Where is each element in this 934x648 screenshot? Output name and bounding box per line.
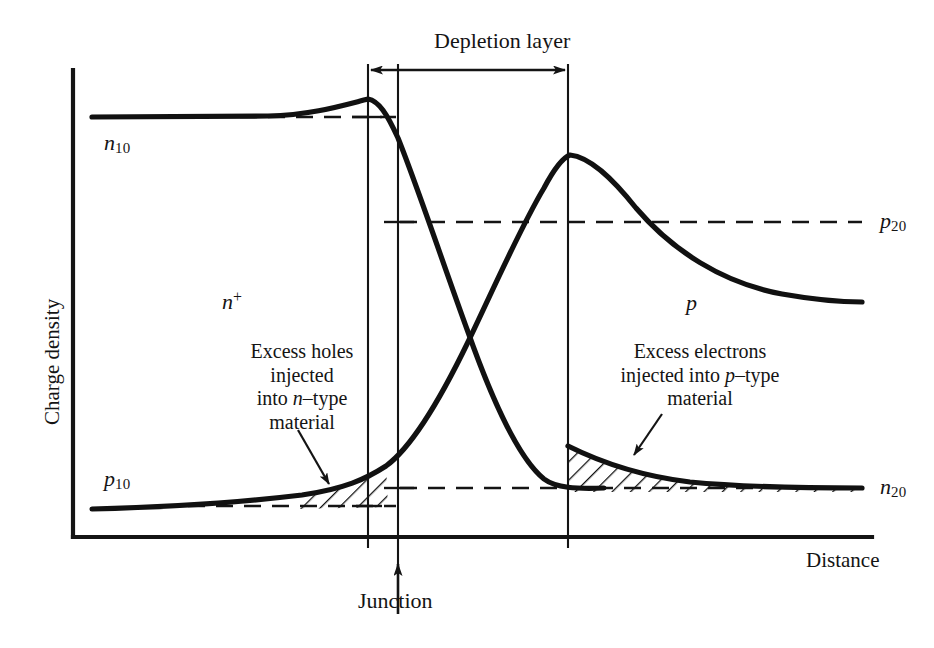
excess-electrons-line-2-post: –type [735,364,779,386]
level-label-n10-sub: 10 [115,140,130,156]
excess-holes-annotation: Excess holes injected into n–type materi… [222,340,382,434]
junction-label: Junction [358,588,433,614]
level-label-n20: n20 [880,474,906,502]
charge-density-diagram [0,0,934,648]
excess-holes-line-2: injected [222,364,382,388]
excess-holes-line-3: into n–type [222,387,382,411]
region-label-p: p [686,290,697,316]
excess-electrons-annotation: Excess electrons injected into p–type ma… [592,340,808,411]
level-label-p20-sub: 20 [891,218,906,234]
hole-density-curve [92,155,862,509]
excess-electrons-line-2: injected into p–type [592,364,808,388]
level-label-p10: p10 [104,466,130,494]
axis-lines [73,70,872,537]
excess-electrons-line-3: material [592,387,808,411]
level-label-p20-base: p [880,208,891,233]
reference-level-lines [160,117,862,506]
excess-electrons-line-2-italic: p [725,364,735,386]
level-label-n20-base: n [880,474,891,499]
excess-electrons-line-1: Excess electrons [592,340,808,364]
density-curves [92,99,862,509]
level-label-n20-sub: 20 [891,484,906,500]
excess-electrons-pointer-arrow [634,414,662,455]
excess-holes-line-3-pre: into [257,387,293,409]
level-label-n10-base: n [104,130,115,155]
y-axis-title: Charge density [40,299,65,425]
region-label-n-plus: n+ [222,288,242,315]
excess-holes-line-3-post: –type [303,387,347,409]
level-label-p10-base: p [104,466,115,491]
excess-holes-pointer-arrow [298,430,329,484]
depletion-layer-label: Depletion layer [434,28,570,54]
x-axis-title: Distance [806,548,879,573]
level-label-n10: n10 [104,130,130,158]
region-label-n-plus-sup: + [233,288,242,305]
excess-holes-line-3-italic: n [293,387,303,409]
level-label-p10-sub: 10 [115,476,130,492]
excess-electrons-line-2-pre: injected into [621,364,725,386]
pointer-arrows [298,414,662,614]
region-label-n-plus-base: n [222,289,233,314]
excess-holes-line-4: material [222,411,382,435]
level-label-p20: p20 [880,208,906,236]
excess-holes-line-1: Excess holes [222,340,382,364]
figure-root: Depletion layer Junction Distance Charge… [0,0,934,648]
